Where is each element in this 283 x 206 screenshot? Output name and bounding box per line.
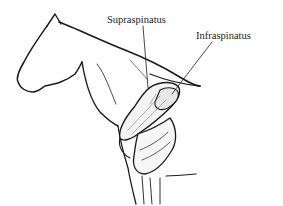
label-infraspinatus: Infraspinatus [196,30,251,41]
label-supraspinatus: Supraspinatus [107,14,166,25]
